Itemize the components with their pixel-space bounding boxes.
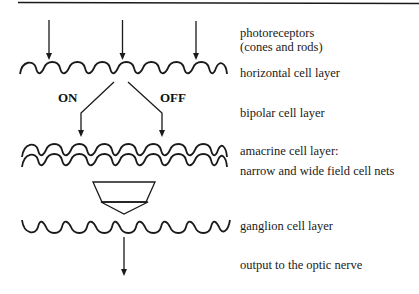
label-output: output to the optic nerve — [240, 258, 363, 272]
label-horizontal: horizontal cell layer — [240, 66, 341, 80]
label-amacrine: amacrine cell layer: — [240, 144, 339, 158]
layer-labels: photoreceptors (cones and rods) horizont… — [240, 26, 395, 272]
output-arrow-icon — [121, 237, 127, 276]
off-label: OFF — [160, 90, 186, 105]
ganglion-cell-wave — [22, 220, 230, 233]
top-rule — [18, 3, 419, 4]
arrow-down-icon — [46, 20, 52, 60]
input-arrows — [46, 20, 199, 60]
retina-diagram: ON OFF photoreceptors (cones and rods) h… — [0, 0, 419, 294]
arrow-down-icon — [193, 21, 199, 60]
horizontal-cell-wave — [20, 62, 227, 74]
label-amacrine-sub: narrow and wide field cell nets — [240, 164, 395, 178]
arrow-down-icon — [120, 20, 126, 60]
label-ganglion: ganglion cell layer — [240, 219, 334, 233]
convergence-funnel-icon — [93, 182, 155, 214]
label-bipolar: bipolar cell layer — [240, 106, 326, 120]
label-photoreceptors-sub: (cones and rods) — [240, 40, 323, 54]
on-label: ON — [58, 90, 78, 105]
amacrine-wave-wide — [22, 154, 227, 167]
label-photoreceptors: photoreceptors — [240, 26, 314, 40]
on-pathway — [78, 82, 114, 137]
